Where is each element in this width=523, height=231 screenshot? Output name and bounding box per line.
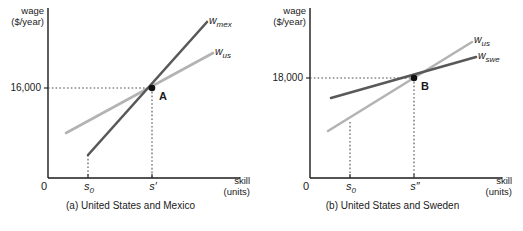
panel-united-states-and-sweden: wage ($/year) skill (units) 18,000 0 s0 … [262, 0, 523, 231]
y-axis-title: wage ($/year) [262, 6, 306, 27]
intersection-point-a [149, 85, 156, 92]
curve-label-w-us-base: w [215, 45, 223, 57]
y-axis-title: wage ($/year) [0, 6, 44, 27]
curve-label-w-mex: wmex [209, 14, 232, 29]
curve-label-w-swe: wswe [478, 49, 500, 64]
curve-label-w-mex-sub: mex [217, 20, 232, 29]
x-tick-label-sprime: s′ [142, 180, 164, 192]
origin-label: 0 [41, 180, 47, 192]
wage-skill-figure: wage ($/year) skill (units) 16,000 0 s0 … [0, 0, 523, 231]
curve-label-w-swe-sub: swe [486, 55, 500, 64]
origin-label: 0 [303, 180, 309, 192]
panel-b-caption: (b) United States and Sweden [262, 200, 523, 211]
curve-w-us [328, 42, 472, 131]
panel-united-states-and-mexico: wage ($/year) skill (units) 16,000 0 s0 … [0, 0, 261, 231]
y-tick-label-16000: 16,000 [0, 82, 41, 93]
curve-label-w-mex-base: w [209, 14, 217, 26]
panel-a-caption: (a) United States and Mexico [0, 200, 261, 211]
x-tick-label-s0: s0 [78, 180, 100, 195]
curve-w-us [66, 53, 213, 133]
x-tick-label-sdoubleprime: s″ [404, 180, 426, 192]
intersection-point-b [411, 75, 418, 82]
curve-label-w-us-sub: us [223, 51, 231, 60]
point-label-a: A [159, 90, 167, 102]
x-axis-title: skill (units) [450, 176, 512, 197]
x-tick-label-sprime-mark: ′ [155, 180, 157, 192]
curve-label-w-us-base: w [474, 33, 482, 45]
curve-label-w-swe-base: w [478, 49, 486, 61]
x-tick-label-s0: s0 [340, 180, 362, 195]
curve-label-w-us: wus [215, 45, 231, 60]
curve-label-w-us-sub: us [482, 39, 490, 48]
point-label-b: B [421, 80, 429, 92]
x-axis-title: skill (units) [188, 176, 250, 197]
curve-label-w-us: wus [474, 33, 490, 48]
x-tick-label-sdoubleprime-mark: ″ [416, 180, 420, 192]
y-tick-label-18000: 18,000 [262, 72, 303, 83]
x-tick-label-s0-sub: 0 [90, 186, 94, 195]
x-tick-label-s0-sub: 0 [352, 186, 356, 195]
